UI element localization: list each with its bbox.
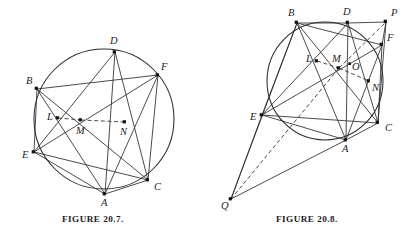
segment-DP-r [348,22,386,23]
segment-DC-r [348,23,378,123]
figure-20-8-group: B D P F C A E L M O N Q [221,6,398,211]
label-B: B [26,75,33,86]
label-B-r: B [288,7,295,18]
point-C-dot-r [376,121,379,124]
segment-FE-r [262,45,382,115]
label-E: E [21,149,29,160]
geometry-diagram-svg: B D F C A E L M N [0,0,413,241]
segment-MN [81,120,125,122]
label-D: D [109,35,118,46]
segment-BF-r [297,23,382,45]
chords-left [34,52,158,194]
point-B-dot-r [295,21,298,24]
point-C-dot [146,178,149,181]
label-L-r: L [305,53,312,64]
figure-caption-left: FIGURE 20.7. [62,214,124,224]
figure-caption-right: FIGURE 20.8. [276,214,338,224]
segment-EC-r [262,115,378,123]
label-A-r: A [341,143,349,154]
point-E-dot [32,150,35,153]
label-O-r: O [352,61,360,72]
point-labels-right: B D P F C A E L M O N Q [221,6,398,211]
segment-MP-r [339,22,386,68]
segment-AC-r [346,123,378,140]
label-D-r: D [342,6,351,17]
segment-BC-r [297,23,378,123]
point-L-dot [56,116,59,119]
point-A-dot-r [344,138,347,141]
segment-LM [58,118,81,120]
label-N-r: N [371,82,380,93]
point-M-dot-r [337,66,340,69]
label-L: L [46,111,53,122]
label-Q-r: Q [221,200,229,211]
segment-FC [148,75,158,180]
segment-BA-r [297,23,346,140]
point-E-dot-r [260,113,263,116]
point-A-dot [103,192,106,195]
segment-EA [34,152,105,194]
label-M-r: M [331,53,342,64]
point-Q-dot-r [229,197,232,200]
label-C: C [154,181,162,192]
segment-QB-r [231,23,297,199]
figure-plate: B D F C A E L M N [0,0,413,241]
point-F-dot-r [380,43,383,46]
point-N-dot-r [367,79,370,82]
point-M-dot [79,118,82,121]
point-P-dot-r [384,20,387,23]
label-M: M [75,125,86,136]
label-F-r: F [386,32,394,43]
point-D-dot [113,50,116,53]
figure-20-7-group: B D F C A E L M N [21,35,174,208]
segment-AC [105,180,148,194]
point-N-dot [123,120,126,123]
segment-QA-r [231,140,346,199]
point-B-dot [35,87,38,90]
point-L-dot-r [315,59,318,62]
segment-DA [105,52,115,194]
circumcircle-left [34,49,174,189]
pascal-line-left [58,118,125,122]
label-P-r: P [390,7,398,18]
segment-DE-r [262,23,348,115]
label-F: F [160,61,168,72]
label-N: N [119,126,128,137]
segment-BA [37,89,105,194]
point-F-dot [156,73,159,76]
point-O-dot-r [348,62,351,65]
segment-DA-r [346,23,348,140]
point-D-dot-r [346,21,349,24]
label-E-r: E [249,111,257,122]
segment-BF [37,75,158,89]
label-C-r: C [385,122,393,133]
point-labels-left: B D F C A E L M N [21,35,168,208]
label-A: A [100,197,108,208]
segment-DE [34,52,115,152]
